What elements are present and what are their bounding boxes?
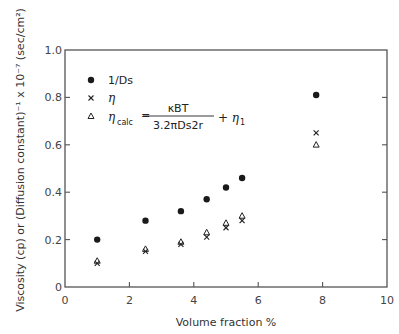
y-tick-label: 0.6 <box>45 139 63 152</box>
y-tick-label: 1.0 <box>45 44 63 57</box>
point-triangle-icon <box>223 220 229 226</box>
point-x-icon <box>204 235 209 240</box>
x-tick-label: 6 <box>255 294 262 307</box>
x-axis-title: Volume fraction % <box>176 316 277 329</box>
legend-marker-circle-icon <box>88 77 94 83</box>
x-tick-label: 2 <box>126 294 133 307</box>
point-circle-icon <box>142 217 148 223</box>
point-triangle-icon <box>239 213 245 219</box>
point-circle-icon <box>223 184 229 190</box>
y-tick-label: 0.4 <box>45 186 63 199</box>
point-x-icon <box>224 225 229 230</box>
legend-marker-triangle-icon <box>88 113 94 119</box>
y-tick-label: 0 <box>55 281 62 294</box>
y-axis-ticks: 00.20.40.60.81.0 <box>45 44 388 294</box>
legend-label-1ds: 1/Ds <box>108 74 133 87</box>
x-tick-label: 0 <box>62 294 69 307</box>
legend: 1/Ds η η calc = κBT 3.2πDs2r + η 1 <box>88 74 245 132</box>
legend-equals: = <box>141 109 150 122</box>
point-circle-icon <box>313 92 319 98</box>
y-axis-title: Viscosity (cp) or (Diffusion constant)⁻¹… <box>14 8 27 312</box>
point-x-icon <box>240 218 245 223</box>
y-tick-label: 0.2 <box>45 234 63 247</box>
legend-fraction-numerator: κBT <box>168 102 189 115</box>
legend-plus-eta1-sub: 1 <box>240 118 245 127</box>
x-tick-label: 8 <box>319 294 326 307</box>
point-circle-icon <box>239 175 245 181</box>
legend-marker-x-icon <box>89 96 94 101</box>
point-circle-icon <box>94 236 100 242</box>
scatter-chart: 0246810 00.20.40.60.81.0 Volume fraction… <box>0 0 399 334</box>
x-axis-ticks: 0246810 <box>62 282 395 307</box>
point-circle-icon <box>203 196 209 202</box>
legend-label-eta-calc: η <box>108 110 116 124</box>
x-tick-label: 10 <box>380 294 394 307</box>
point-circle-icon <box>178 208 184 214</box>
point-x-icon <box>314 130 319 135</box>
x-tick-label: 4 <box>190 294 197 307</box>
point-triangle-icon <box>204 229 210 235</box>
y-tick-label: 0.8 <box>45 91 63 104</box>
legend-label-eta-calc-sub: calc <box>117 118 133 127</box>
legend-plus-eta1: + η <box>218 111 240 125</box>
legend-fraction-denominator: 3.2πDs2r <box>153 119 203 132</box>
legend-label-eta: η <box>108 91 116 105</box>
point-triangle-icon <box>313 142 319 148</box>
